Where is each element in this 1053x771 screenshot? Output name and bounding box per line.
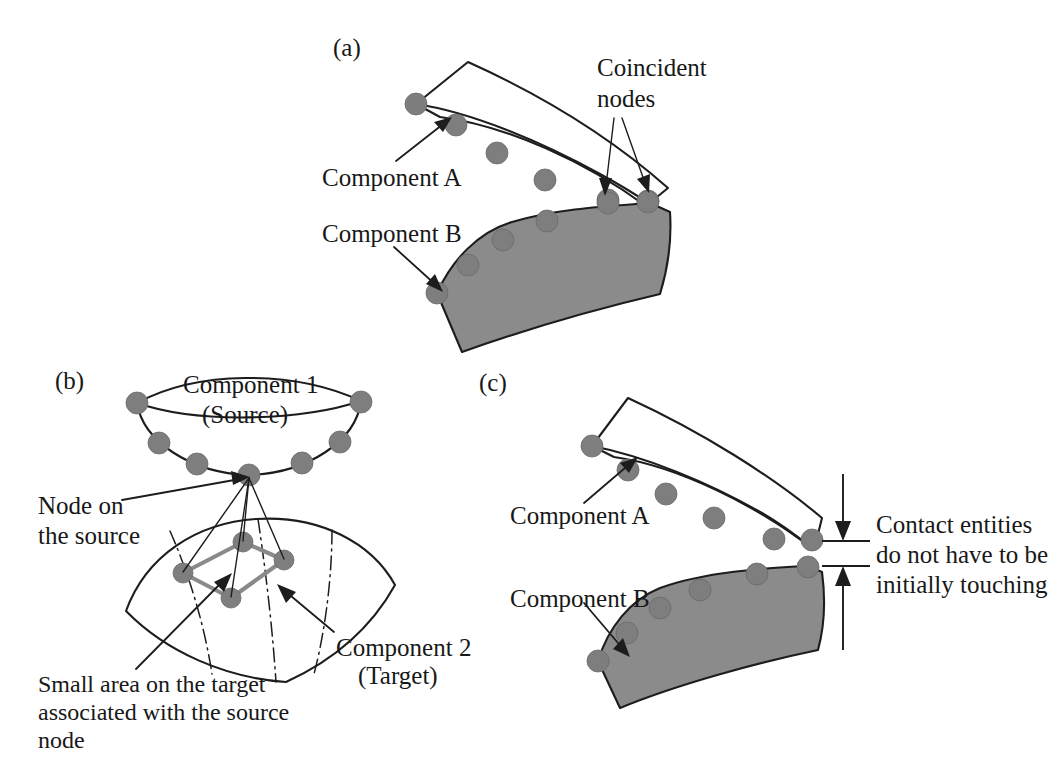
panel-a-component-a-leader [396,117,452,161]
panel-b-target-gridline [170,531,212,674]
node [597,192,619,214]
panel-c-gap-dimension [822,474,870,650]
panel-b-component-2-label-line1: Component 2 [336,634,471,661]
node [173,563,193,583]
node [405,93,427,115]
node [329,431,351,453]
panel-b-small-area-label-line2: associated with the source [38,699,289,725]
node [581,435,603,457]
panel-b-target-gridline [258,519,276,682]
node [486,142,508,164]
panel-a: (a) Component A Component B Coincident n… [322,34,707,352]
node [291,452,313,474]
node [587,650,609,672]
panel-b-target-gridline [314,530,332,674]
node [350,391,372,413]
figure-canvas: (a) Component A Component B Coincident n… [0,0,1053,771]
node [457,254,479,276]
leader-line [136,580,224,669]
panel-b-component-2-label-line2: (Target) [358,662,438,690]
panel-b-component-1-label-line1: Component 1 [183,371,318,398]
panel-b-node-on-source-label-line2: the source [38,522,140,549]
panel-b-small-area-label-line1: Small area on the target [38,671,266,697]
arrowhead-up [835,566,851,586]
node [186,453,208,475]
node [746,563,768,585]
panel-c-component-b-label: Component B [510,585,650,612]
node [637,191,659,213]
panel-a-component-b-leader [394,247,443,292]
node [445,114,467,136]
node [126,392,148,414]
panel-b-patch-nodes [173,532,294,608]
node [536,210,558,232]
panel-c-gap-note-line1: Contact entities [876,511,1032,538]
node [649,597,671,619]
panel-c: (c) Component A Component B Contact enti… [479,369,1048,708]
panel-b-node-on-source-label-line1: Node on [38,492,124,519]
node [797,556,819,578]
figure-root: (a) Component A Component B Coincident n… [0,0,1053,771]
arrowhead [277,584,296,603]
panel-a-coincident-label-line2: nodes [597,85,655,112]
arrowhead-down [835,521,851,541]
node [616,622,638,644]
panel-c-gap-note-line2: do not have to be [876,541,1048,568]
panel-c-component-a-label: Component A [510,502,650,529]
panel-c-gap-note-line3: initially touching [876,571,1048,598]
leader-line [122,479,240,500]
panel-a-component-a-label: Component A [322,164,462,191]
node [148,432,170,454]
node [763,528,785,550]
panel-a-component-b-label: Component B [322,220,462,247]
panel-b-component-1-label-line2: (Source) [202,401,288,429]
node [801,529,823,551]
panel-a-label: (a) [333,34,361,62]
node [689,579,711,601]
panel-a-coincident-label-line1: Coincident [597,54,707,81]
panel-b-component-2-leader [277,584,334,632]
node [655,483,677,505]
node [492,229,514,251]
node [703,507,725,529]
panel-b-node-on-source-leader [122,471,250,500]
panel-b-small-area-label-line3: node [38,727,85,753]
panel-b-label: (b) [55,367,84,395]
panel-c-label: (c) [479,369,507,397]
panel-b: (b) Component 1 (Source) Node on the sou… [38,367,471,753]
node [534,169,556,191]
node [274,550,294,570]
